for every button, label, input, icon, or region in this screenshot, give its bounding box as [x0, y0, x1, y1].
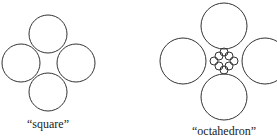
square-figure [2, 15, 95, 111]
large-circle [242, 38, 277, 84]
small-circle [220, 66, 228, 74]
large-circle [57, 44, 95, 82]
large-circle [160, 38, 206, 84]
small-circle [210, 57, 218, 65]
octahedron-caption: “octahedron” [192, 124, 256, 139]
large-circle [201, 3, 247, 49]
large-circle [29, 73, 67, 111]
small-circle [225, 62, 233, 70]
octahedron-figure [160, 3, 277, 120]
small-circle [215, 52, 223, 60]
large-circle [2, 44, 40, 82]
large-circle [201, 74, 247, 120]
square-caption: “square” [27, 117, 69, 132]
large-circle [29, 15, 67, 53]
small-circle [230, 57, 238, 65]
small-circle [225, 52, 233, 60]
small-circle [215, 62, 223, 70]
